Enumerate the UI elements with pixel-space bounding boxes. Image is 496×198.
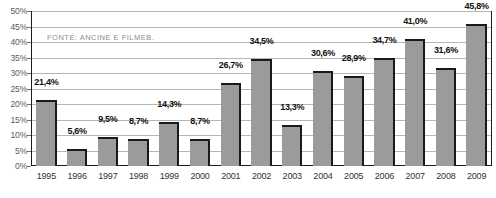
y-axis-tick-label: 0% — [15, 161, 27, 171]
y-axis-tick-label: 35% — [11, 53, 27, 63]
x-axis-tick-label: 1996 — [67, 171, 86, 181]
x-axis-tick-label: 2001 — [221, 171, 240, 181]
bar — [466, 24, 486, 166]
bar-slot: 28,9% — [344, 11, 364, 166]
bar-value-label: 41,0% — [403, 17, 427, 28]
x-axis-tick-label: 1999 — [160, 171, 179, 181]
bar-slot: 14,3% — [159, 11, 179, 166]
x-axis: 1995199619971998199920002001200220032004… — [31, 168, 492, 190]
x-axis-tick-label: 2007 — [406, 171, 425, 181]
bar — [436, 68, 456, 166]
bar-slot: 34,7% — [374, 11, 394, 166]
y-axis: 0%5%10%15%20%25%30%35%40%45%50% — [0, 0, 31, 170]
y-axis-tick-label: 45% — [11, 22, 27, 32]
bar-value-label: 21,4% — [34, 78, 58, 89]
x-axis-tick-label: 1995 — [37, 171, 56, 181]
source-note: FONTE: ANCINE E FILMEB. — [47, 33, 154, 42]
bar-value-label: 14,3% — [157, 100, 181, 111]
x-axis-tick-label: 2003 — [283, 171, 302, 181]
bar-value-label: 30,6% — [311, 49, 335, 60]
bar-chart: 0%5%10%15%20%25%30%35%40%45%50% 21,4%5,6… — [0, 0, 496, 198]
bar — [405, 39, 425, 166]
bar-value-label: 5,6% — [67, 127, 86, 138]
bar-value-label: 34,7% — [372, 36, 396, 47]
bar-value-label: 45,8% — [465, 2, 489, 13]
bar — [313, 71, 333, 166]
y-axis-tick-label: 50% — [11, 6, 27, 16]
bar-value-label: 26,7% — [219, 61, 243, 72]
bar — [344, 76, 364, 166]
y-axis-tick-label: 25% — [11, 84, 27, 94]
bar — [67, 149, 87, 166]
x-axis-tick-label: 2008 — [436, 171, 455, 181]
bar — [98, 137, 118, 166]
bar-slot: 41,0% — [405, 11, 425, 166]
bar-value-label: 13,3% — [280, 103, 304, 114]
bar-value-label: 9,5% — [98, 115, 117, 126]
bar-value-label: 31,6% — [434, 46, 458, 57]
x-axis-tick-label: 2000 — [190, 171, 209, 181]
x-axis-tick-label: 2002 — [252, 171, 271, 181]
y-axis-tick-label: 15% — [11, 115, 27, 125]
bar-slot: 30,6% — [313, 11, 333, 166]
bar-slot: 26,7% — [221, 11, 241, 166]
bar — [221, 83, 241, 166]
bar — [190, 139, 210, 166]
x-axis-tick-label: 2006 — [375, 171, 394, 181]
x-axis-tick-label: 1997 — [98, 171, 117, 181]
x-axis-tick-label: 2009 — [467, 171, 486, 181]
bar — [374, 58, 394, 166]
y-axis-tick-label: 10% — [11, 130, 27, 140]
bar-slot: 45,8% — [466, 11, 486, 166]
bar — [128, 139, 148, 166]
bar — [282, 125, 302, 166]
bar-value-label: 8,7% — [129, 117, 148, 128]
bar-slot: 13,3% — [282, 11, 302, 166]
y-axis-tick-label: 20% — [11, 99, 27, 109]
x-axis-tick-label: 2005 — [344, 171, 363, 181]
y-axis-tick-label: 30% — [11, 68, 27, 78]
bar — [251, 59, 271, 166]
bar-slot: 8,7% — [190, 11, 210, 166]
bar-value-label: 34,5% — [249, 37, 273, 48]
bar-slot: 34,5% — [251, 11, 271, 166]
x-axis-tick-label: 2004 — [313, 171, 332, 181]
bar-value-label: 28,9% — [342, 54, 366, 65]
bar-value-label: 8,7% — [190, 117, 209, 128]
y-axis-tick-label: 5% — [15, 146, 27, 156]
y-axis-tick-mark — [27, 166, 31, 167]
bar — [159, 122, 179, 166]
x-axis-tick-label: 1998 — [129, 171, 148, 181]
bar-slot: 31,6% — [436, 11, 456, 166]
y-axis-tick-label: 40% — [11, 37, 27, 47]
bar — [36, 100, 56, 166]
